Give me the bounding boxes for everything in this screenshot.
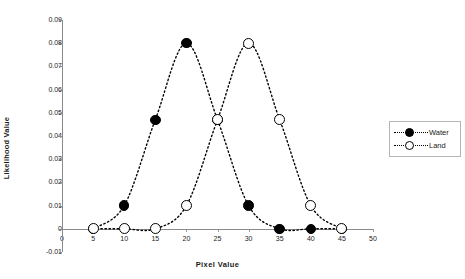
data-point-land: [243, 38, 254, 49]
data-point-land: [181, 200, 192, 211]
legend-item-land: Land: [394, 139, 454, 152]
data-point-land: [305, 200, 316, 211]
legend-item-water: Water: [394, 126, 454, 139]
data-point-water: [119, 200, 130, 211]
chart-legend: Water Land: [389, 121, 461, 157]
data-point-water: [150, 115, 161, 126]
data-point-water: [181, 38, 192, 49]
legend-label: Water: [428, 128, 449, 137]
legend-marker-open-circle-icon: [394, 140, 428, 151]
legend-label: Land: [428, 141, 446, 150]
data-point-land: [150, 223, 161, 234]
data-point-land: [88, 223, 99, 234]
chart-figure: Likelihood Value Pixel Value -0.0100.010…: [0, 0, 465, 279]
data-point-land: [274, 114, 285, 125]
legend-marker-filled-circle-icon: [394, 127, 428, 138]
data-point-water: [306, 224, 317, 235]
data-point-water: [274, 224, 285, 235]
data-point-land: [119, 223, 130, 234]
data-point-water: [243, 200, 254, 211]
data-point-land: [336, 223, 347, 234]
